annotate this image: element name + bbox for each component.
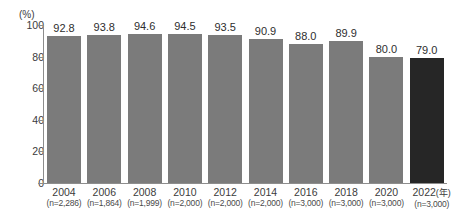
bar-group: 90.9 (246, 25, 286, 183)
x-axis-label-group: 2010(n=2,000) (165, 186, 205, 209)
x-axis-sample-size-label: (n=1,999) (125, 198, 165, 209)
x-axis-label-group: 2008(n=1,999) (125, 186, 165, 209)
x-axis-sample-size-label: (n=2,286) (44, 198, 84, 209)
bar (249, 39, 283, 183)
x-axis-label-group: 2014(n=2,000) (246, 186, 286, 209)
bar (128, 34, 162, 183)
x-axis-year-label: 2012 (205, 186, 245, 198)
bar (87, 35, 121, 183)
bar (168, 34, 202, 183)
x-axis-year-label: 2010 (165, 186, 205, 198)
x-axis-year-label: 2008 (125, 186, 165, 198)
bar-group: 92.8 (44, 25, 84, 183)
x-axis-sample-size-label: (n=1,864) (84, 198, 124, 209)
bar (369, 57, 403, 183)
bar-value-label: 94.6 (125, 20, 165, 32)
x-axis-year-label: 2018 (326, 186, 366, 198)
bar-value-label: 94.5 (165, 20, 205, 32)
x-axis-unit-label: (年) (436, 188, 451, 198)
x-axis-year-label: 2006 (84, 186, 124, 198)
x-axis-year-label: 2022(年) (403, 186, 461, 199)
bar-group: 94.5 (165, 25, 205, 183)
bar (289, 44, 323, 183)
x-axis-label-group: 2006(n=1,864) (84, 186, 124, 209)
x-axis-year-label: 2014 (246, 186, 286, 198)
x-axis-label-group: 2022(年)(n=3,000) (403, 186, 461, 210)
x-axis-label-group: 2004(n=2,286) (44, 186, 84, 209)
x-axis-year-label: 2016 (286, 186, 326, 198)
bar (329, 41, 363, 183)
x-axis-sample-size-label: (n=3,000) (366, 198, 406, 209)
bar-group: 93.8 (84, 25, 124, 183)
bar-value-label: 93.5 (205, 21, 245, 33)
x-axis-sample-size-label: (n=2,000) (205, 198, 245, 209)
bar-chart: (%) 100806040200 92.893.894.694.593.590.… (0, 0, 461, 220)
x-axis-sample-size-label: (n=2,000) (246, 198, 286, 209)
bar-value-label: 88.0 (286, 30, 326, 42)
bar-value-label: 79.0 (407, 44, 447, 56)
bar-value-label: 89.9 (326, 27, 366, 39)
x-axis-sample-size-label: (n=3,000) (326, 198, 366, 209)
x-axis-label-group: 2016(n=3,000) (286, 186, 326, 209)
x-axis-sample-size-label: (n=2,000) (165, 198, 205, 209)
plot-area: 92.893.894.694.593.590.988.089.980.079.0 (44, 25, 447, 183)
bar-group: 79.0 (407, 25, 447, 183)
bar-group: 80.0 (366, 25, 406, 183)
bar-group: 93.5 (205, 25, 245, 183)
bar-value-label: 93.8 (84, 21, 124, 33)
x-axis-labels: 2004(n=2,286)2006(n=1,864)2008(n=1,999)2… (44, 186, 447, 216)
bar (47, 36, 81, 183)
x-axis-label-group: 2012(n=2,000) (205, 186, 245, 209)
bar (410, 58, 444, 183)
bar-group: 88.0 (286, 25, 326, 183)
x-axis-label-group: 2018(n=3,000) (326, 186, 366, 209)
x-axis-year-label: 2004 (44, 186, 84, 198)
bar-value-label: 80.0 (366, 43, 406, 55)
bar-group: 94.6 (125, 25, 165, 183)
bar-value-label: 90.9 (246, 25, 286, 37)
x-axis-year-label: 2020 (366, 186, 406, 198)
x-axis-sample-size-label: (n=3,000) (286, 198, 326, 209)
bar (208, 35, 242, 183)
bar-value-label: 92.8 (44, 22, 84, 34)
x-axis-sample-size-label: (n=3,000) (403, 199, 461, 210)
x-axis-line (43, 183, 447, 184)
bar-group: 89.9 (326, 25, 366, 183)
x-axis-label-group: 2020(n=3,000) (366, 186, 406, 209)
